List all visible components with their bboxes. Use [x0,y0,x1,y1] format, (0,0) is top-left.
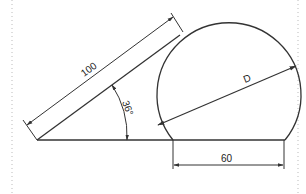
extension-line-end [171,13,183,32]
diameter-line [158,66,296,125]
technical-drawing: 100 36° D 60 [0,0,306,194]
circle-arc [157,23,301,140]
length-label: 100 [79,60,99,79]
chord-label: 60 [221,153,233,164]
diameter-label: D [242,72,253,85]
angle-label: 36° [120,99,136,117]
length-dimension-line [27,17,173,125]
